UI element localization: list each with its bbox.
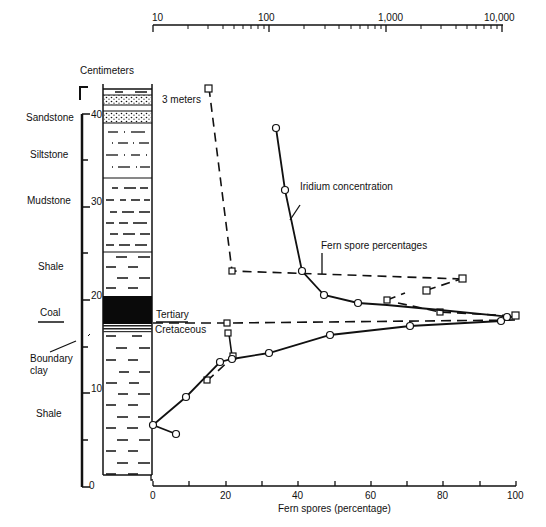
- x-tick-80: 80: [437, 490, 448, 501]
- x-tick-100: 100: [507, 490, 524, 501]
- depth-tick-10: 10: [91, 383, 102, 394]
- depth-tick-30: 30: [91, 196, 102, 207]
- top-log-axis: [153, 25, 503, 32]
- x-tick-20: 20: [220, 490, 231, 501]
- chart-figure: [0, 0, 546, 527]
- depth-tick-20: 20: [91, 290, 102, 301]
- x-axis-title: Fern spores (percentage): [278, 503, 391, 514]
- lith-boundary-clay-1: Boundary: [30, 353, 73, 364]
- top-tick-1000: 1,000: [378, 12, 403, 23]
- top-tick-100: 100: [258, 12, 275, 23]
- fern-label: Fern spore percentages: [321, 240, 427, 251]
- depth-tick-0: 0: [89, 480, 95, 491]
- lith-shale-lower: Shale: [36, 408, 62, 419]
- lith-boundary-clay-2: clay: [30, 365, 48, 376]
- cretaceous-label: Cretaceous: [155, 324, 206, 335]
- three-meters-label: 3 meters: [162, 94, 201, 105]
- x-tick-40: 40: [292, 490, 303, 501]
- lith-sandstone: Sandstone: [26, 112, 74, 123]
- iridium-series: [150, 125, 513, 438]
- x-tick-0: 0: [150, 490, 156, 501]
- lith-shale-upper: Shale: [38, 261, 64, 272]
- tertiary-label: Tertiary: [156, 309, 189, 320]
- lithology-column: [103, 84, 152, 475]
- lith-coal: Coal: [40, 307, 61, 318]
- top-tick-10: 10: [152, 12, 163, 23]
- lith-siltstone: Siltstone: [30, 149, 68, 160]
- x-tick-60: 60: [365, 490, 376, 501]
- iridium-label: Iridium concentration: [300, 181, 393, 192]
- top-tick-10000: 10,000: [484, 12, 515, 23]
- fern-spore-series: [153, 85, 519, 383]
- depth-axis: [80, 87, 90, 487]
- depth-tick-40: 40: [91, 109, 102, 120]
- bottom-axis: [151, 475, 516, 486]
- lith-mudstone: Mudstone: [27, 195, 71, 206]
- depth-axis-title: Centimeters: [80, 65, 134, 76]
